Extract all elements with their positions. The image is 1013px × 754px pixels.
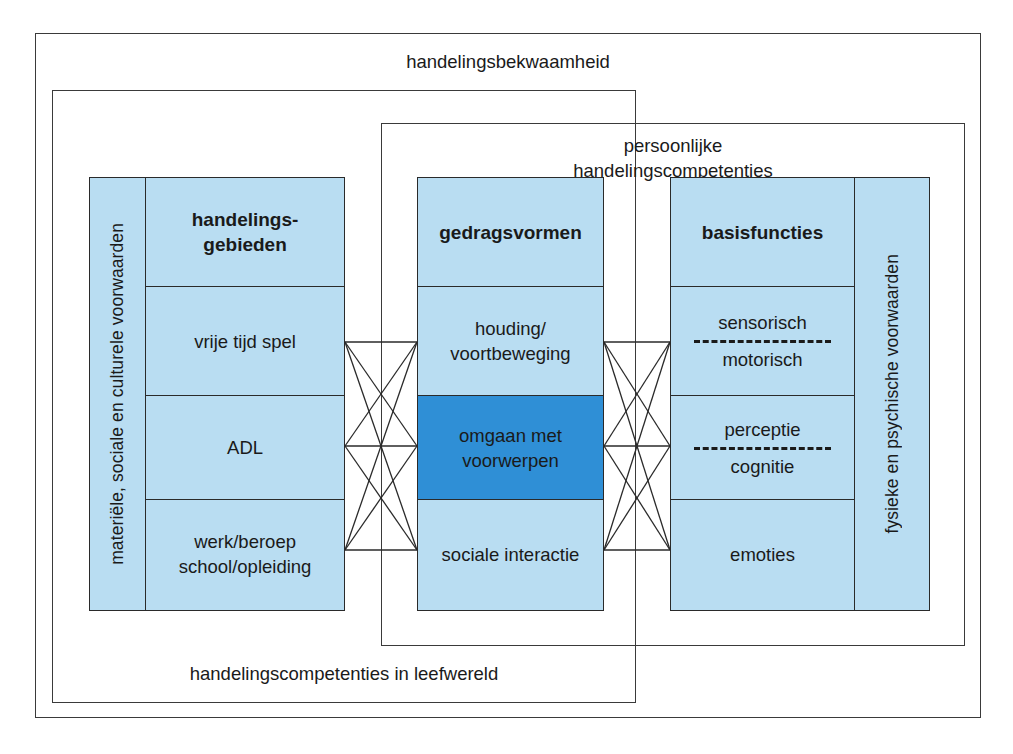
label-cognitie: cognitie [731, 454, 795, 479]
cell-perceptie-cognitie[interactable]: perceptie cognitie [671, 395, 854, 499]
diagram-canvas: handelingsbekwaamheid handelingscompeten… [0, 0, 1013, 754]
frame-persoonlijke-handelingscompetenties-label: persoonlijke handelingscompetenties [381, 133, 965, 183]
group-basisfuncties: basisfuncties sensorisch motorisch perce… [670, 177, 930, 611]
cell-werk-beroep-school-opleiding[interactable]: werk/beroep school/opleiding [146, 499, 344, 608]
cell-handelingsgebieden-header: handelings- gebieden [146, 178, 344, 286]
cell-omgaan-met-voorwerpen[interactable]: omgaan met voorwerpen [418, 395, 603, 499]
column-basisfuncties: basisfuncties sensorisch motorisch perce… [671, 178, 854, 610]
frame-handelingsbekwaamheid-label: handelingsbekwaamheid [35, 49, 981, 74]
cell-gedragsvormen-header: gedragsvormen [418, 178, 603, 286]
cell-emoties[interactable]: emoties [671, 499, 854, 608]
dashed-divider-icon [694, 340, 831, 343]
column-handelingsgebieden: handelings- gebieden vrije tijd spel ADL… [146, 178, 344, 610]
group-gedragsvormen: gedragsvormen houding/ voortbeweging omg… [417, 177, 604, 611]
connector-left-middle [345, 340, 417, 552]
cell-sociale-interactie[interactable]: sociale interactie [418, 499, 603, 608]
sidebar-fysieke-en-psychische-voorwaarden: fysieke en psychische voorwaarden [854, 178, 929, 610]
label-perceptie: perceptie [724, 417, 800, 442]
frame-handelingscompetenties-in-leefwereld-label: handelingscompetenties in leefwereld [52, 661, 636, 686]
label-emoties: emoties [730, 542, 795, 567]
cell-sensorisch-motorisch[interactable]: sensorisch motorisch [671, 286, 854, 395]
sidebar-left-label: materiële, sociale en culturele voorwaar… [107, 223, 128, 565]
column-gedragsvormen: gedragsvormen houding/ voortbeweging omg… [418, 178, 603, 610]
label-motorisch: motorisch [722, 347, 802, 372]
cell-vrije-tijd-spel[interactable]: vrije tijd spel [146, 286, 344, 395]
label-sensorisch: sensorisch [718, 310, 806, 335]
connector-middle-right [604, 340, 670, 552]
cell-adl[interactable]: ADL [146, 395, 344, 499]
dashed-divider-icon [694, 447, 831, 450]
cell-basisfuncties-header: basisfuncties [671, 178, 854, 286]
sidebar-right-label: fysieke en psychische voorwaarden [882, 254, 903, 534]
group-handelingsgebieden: materiële, sociale en culturele voorwaar… [89, 177, 345, 611]
cell-houding-voortbeweging[interactable]: houding/ voortbeweging [418, 286, 603, 395]
sidebar-materiele-sociale-culturele-voorwaarden: materiële, sociale en culturele voorwaar… [90, 178, 146, 610]
